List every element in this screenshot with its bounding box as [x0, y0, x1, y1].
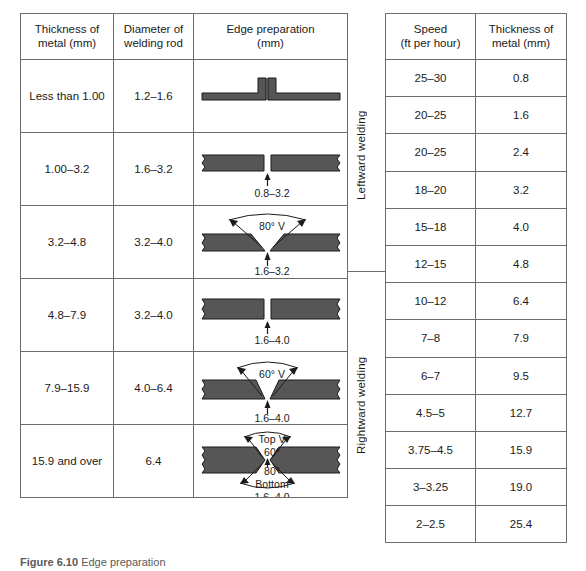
- right-plate-shape: [268, 78, 340, 100]
- gap-arrow-head: [265, 252, 271, 260]
- cell-speed: 3.75–4.5: [386, 431, 476, 468]
- square-butt-joint-diagram: 1.6–4.0: [194, 279, 347, 351]
- cell-rod-diameter: 6.4: [114, 425, 194, 498]
- cell-thickness: 4.8–7.9: [21, 279, 114, 352]
- included-angle-label: 60° V: [244, 368, 300, 380]
- table-row: 6–7 9.5: [386, 357, 567, 394]
- table-row: 3–3.25 19.0: [386, 469, 567, 506]
- gap-dimension-label: 1.6–4.0: [244, 412, 300, 424]
- top-v-label: Top V: [246, 433, 298, 445]
- gap-dimension-label: 1.6–3.2: [244, 265, 300, 277]
- gap-arrow-head: [265, 400, 271, 408]
- cell-speed: 7–8: [386, 320, 476, 357]
- gap-dimension-label: 1.6–4.0: [244, 491, 300, 498]
- table-row: 12–15 4.8: [386, 245, 567, 282]
- header-line-1: Edge preparation: [226, 23, 314, 35]
- cell-edge-preparation-diagram: Top V 60° 80° Bottom 1.6–4.0: [194, 425, 348, 498]
- right-plate-shape: [271, 299, 340, 319]
- cell-thickness: 2.4: [476, 134, 567, 171]
- column-header-diameter-of-welding-rod: Diameter of welding rod: [114, 14, 194, 60]
- gap-dimension-label: 0.8–3.2: [244, 187, 300, 199]
- left-plate-shape: [202, 234, 265, 251]
- cell-edge-preparation-diagram: 0.8–3.2: [194, 133, 348, 206]
- cell-thickness: 4.8: [476, 245, 567, 282]
- cell-thickness: 3.2: [476, 171, 567, 208]
- table-row: 1.00–3.2 1.6–3.2 0.8–3.2: [21, 133, 348, 206]
- table-header-row: Speed (ft per hour) Thickness of metal (…: [386, 14, 567, 60]
- table-row: 15–18 4.0: [386, 208, 567, 245]
- header-line-1: Thickness of: [489, 23, 554, 35]
- cell-rod-diameter: 3.2–4.0: [114, 279, 194, 352]
- cell-speed: 25–30: [386, 60, 476, 97]
- single-v-butt-joint-diagram-80: 80° V 1.6–3.2: [194, 206, 347, 278]
- cell-edge-preparation-diagram: [194, 60, 348, 133]
- column-header-speed: Speed (ft per hour): [386, 14, 476, 60]
- cell-rod-diameter: 3.2–4.0: [114, 206, 194, 279]
- cell-thickness: 25.4: [476, 506, 567, 543]
- table-row: 4.5–5 12.7: [386, 394, 567, 431]
- angle-arrow-head-left: [229, 219, 238, 227]
- figure-caption-text: Edge preparation: [81, 556, 165, 568]
- cell-thickness: 1.00–3.2: [21, 133, 114, 206]
- cell-speed: 20–25: [386, 134, 476, 171]
- table-row: 3.2–4.8 3.2–4.0: [21, 206, 348, 279]
- left-plate-shape: [202, 155, 264, 171]
- cell-thickness: 12.7: [476, 394, 567, 431]
- table-row: 10–12 6.4: [386, 283, 567, 320]
- gap-arrow-head: [265, 321, 271, 328]
- cell-thickness: Less than 1.00: [21, 60, 114, 133]
- table-row: 20–25 2.4: [386, 134, 567, 171]
- flanged-butt-svg: [194, 60, 348, 132]
- cell-thickness: 7.9–15.9: [21, 352, 114, 425]
- cell-rod-diameter: 1.2–1.6: [114, 60, 194, 133]
- table-header-row: Thickness of metal (mm) Diameter of weld…: [21, 14, 348, 60]
- cell-speed: 15–18: [386, 208, 476, 245]
- gap-dimension-label: 1.6–4.0: [244, 334, 300, 346]
- section-divider-rule: [347, 271, 385, 272]
- cell-speed: 12–15: [386, 245, 476, 282]
- header-line-2: metal (mm): [23, 36, 111, 50]
- table-row: 15.9 and over 6.4: [21, 425, 348, 498]
- table-row: Less than 1.00 1.2–1.6: [21, 60, 348, 133]
- cell-thickness: 9.5: [476, 357, 567, 394]
- left-plate-shape: [202, 380, 265, 399]
- header-line-2: welding rod: [116, 36, 191, 50]
- header-line-1: Thickness of: [35, 23, 100, 35]
- column-header-edge-preparation: Edge preparation (mm): [194, 14, 348, 60]
- cell-thickness: 3.2–4.8: [21, 206, 114, 279]
- bottom-v-label: Bottom: [246, 478, 298, 490]
- cell-speed: 2–2.5: [386, 506, 476, 543]
- left-plate-shape: [202, 299, 264, 319]
- included-angle-label: 80° V: [244, 220, 300, 232]
- cell-speed: 4.5–5: [386, 394, 476, 431]
- cell-edge-preparation-diagram: 80° V 1.6–3.2: [194, 206, 348, 279]
- cell-edge-preparation-diagram: 60° V 1.6–4.0: [194, 352, 348, 425]
- gap-arrow-head: [265, 173, 271, 180]
- table-row: 7.9–15.9 4.0–6.4 60° V: [21, 352, 348, 425]
- cell-rod-diameter: 1.6–3.2: [114, 133, 194, 206]
- cell-thickness: 6.4: [476, 283, 567, 320]
- header-line-2: metal (mm): [478, 36, 564, 50]
- table-row: 18–20 3.2: [386, 171, 567, 208]
- cell-speed: 3–3.25: [386, 469, 476, 506]
- figure-number: Figure 6.10: [20, 556, 78, 568]
- cell-thickness: 7.9: [476, 320, 567, 357]
- table-row: 4.8–7.9 3.2–4.0 1.6–4.0: [21, 279, 348, 352]
- bottom-v-angle-value: 80°: [246, 465, 298, 477]
- cell-thickness: 15.9 and over: [21, 425, 114, 498]
- table-row: 7–8 7.9: [386, 320, 567, 357]
- cell-thickness: 0.8: [476, 60, 567, 97]
- single-v-butt-joint-diagram-60: 60° V 1.6–4.0: [194, 352, 347, 424]
- figure-caption: Figure 6.10 Edge preparation: [20, 556, 166, 568]
- header-line-1: Speed: [414, 23, 447, 35]
- top-v-angle-value: 60°: [246, 446, 298, 458]
- cell-thickness: 15.9: [476, 431, 567, 468]
- cell-speed: 10–12: [386, 283, 476, 320]
- edge-preparation-table: Thickness of metal (mm) Diameter of weld…: [20, 13, 348, 498]
- table-row: 25–30 0.8: [386, 60, 567, 97]
- cell-speed: 6–7: [386, 357, 476, 394]
- right-plate-shape: [271, 155, 340, 171]
- double-v-butt-joint-diagram: Top V 60° 80° Bottom 1.6–4.0: [194, 425, 347, 497]
- cell-thickness: 4.0: [476, 208, 567, 245]
- left-plate-shape: [202, 78, 266, 100]
